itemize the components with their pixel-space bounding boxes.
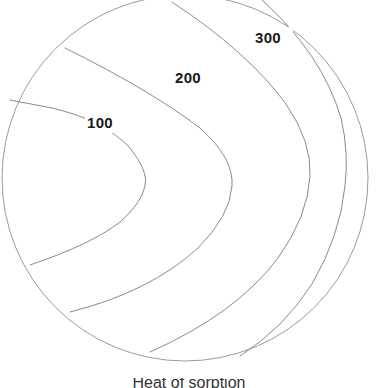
contour-plot-figure: 100 200 300 Heat of sorption xyxy=(0,0,378,388)
figure-caption: Heat of sorption xyxy=(0,378,378,388)
contour-plot-canvas xyxy=(0,0,378,388)
contour-label-200: 200 xyxy=(175,70,201,85)
contour-line-unlabeled xyxy=(240,0,346,356)
contour-line-group xyxy=(10,0,346,356)
figure-caption-clip: Heat of sorption xyxy=(0,378,378,388)
contour-label-100: 100 xyxy=(87,115,113,130)
contour-line-300 xyxy=(150,2,310,352)
contour-line-100 xyxy=(10,100,146,265)
plot-boundary-circle xyxy=(2,0,368,361)
contour-label-300: 300 xyxy=(255,30,281,45)
